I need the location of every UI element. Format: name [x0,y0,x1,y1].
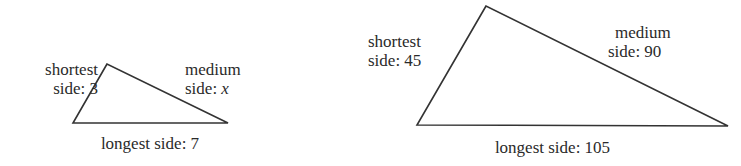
large-medium-prefix: side: [608,42,644,61]
large-longest-prefix: longest side: [495,138,585,157]
small-longest-value: 7 [191,134,200,153]
small-medium-line1: medium [185,60,241,79]
large-medium-line1: medium [608,23,671,42]
large-medium-side-label: medium side: 90 [608,23,671,61]
large-triangle [417,6,728,126]
small-shortest-side-label: shortest side: 3 [18,60,98,98]
large-medium-value: 90 [644,42,661,61]
small-shortest-line2: side: 3 [18,79,98,98]
small-shortest-value: 3 [90,79,99,98]
large-shortest-line1: shortest [368,32,421,51]
small-medium-side-label: medium side: x [185,60,241,98]
small-medium-prefix: side: [185,79,221,98]
small-shortest-prefix: side: [53,79,89,98]
small-shortest-line1: shortest [18,60,98,79]
large-longest-value: 105 [585,138,611,157]
large-shortest-prefix: side: [368,51,404,70]
large-shortest-line2: side: 45 [368,51,421,70]
small-medium-value: x [221,79,229,98]
small-longest-prefix: longest side: [101,134,191,153]
small-longest-side-label: longest side: 7 [80,134,220,153]
large-shortest-value: 45 [404,51,421,70]
large-shortest-side-label: shortest side: 45 [368,32,421,70]
large-medium-line2: side: 90 [608,42,671,61]
large-longest-side-label: longest side: 105 [470,138,635,157]
small-medium-line2: side: x [185,79,241,98]
